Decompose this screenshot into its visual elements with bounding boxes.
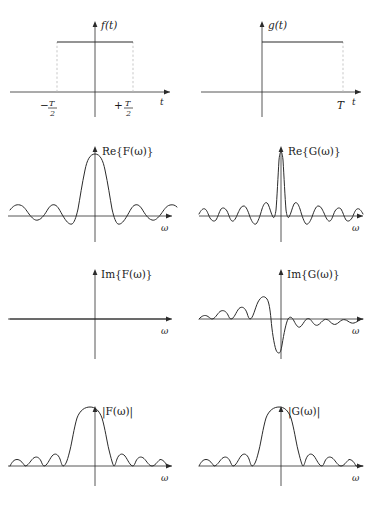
reg-signal-label: Re{G(ω)}	[288, 145, 341, 158]
reg-y-arrowhead	[279, 146, 284, 152]
gt-signal-label: g(t)	[268, 19, 287, 31]
ft-x-axis-label: t	[160, 97, 164, 107]
panel-imf: Im{F(ω)} ω	[0, 247, 190, 369]
gt-y-arrowhead	[260, 21, 265, 27]
reg-x-arrowhead	[357, 214, 363, 219]
ft-tick-right-denominator: 2	[125, 109, 131, 118]
ft-tick-left: − T 2	[40, 99, 57, 118]
absf-abs-sinc-curve	[10, 407, 170, 466]
ref-signal-label: Re{F(ω)}	[102, 145, 154, 158]
ft-tick-left-sign: −	[40, 99, 49, 111]
ref-sinc-curve	[10, 154, 177, 224]
reg-x-axis-label: ω	[352, 223, 360, 233]
gt-x-arrowhead	[355, 90, 361, 95]
img-y-arrowhead	[279, 269, 284, 275]
gt-x-axis-label: t	[352, 97, 356, 107]
absf-x-axis-label: ω	[161, 473, 169, 483]
ref-y-arrowhead	[93, 146, 98, 152]
figure-grid: f(t) t − T 2 + T 2	[0, 0, 381, 513]
ft-tick-right: + T 2	[114, 99, 133, 118]
ft-x-arrowhead	[164, 90, 170, 95]
ft-tick-left-denominator: 2	[49, 109, 55, 118]
panel-gt: g(t) t T	[191, 2, 381, 124]
panel-img: Im{G(ω)} ω	[191, 247, 381, 369]
panel-ref: Re{F(ω)} ω	[0, 124, 190, 246]
panel-absf: |F(ω)| ω	[0, 366, 190, 488]
img-x-axis-label: ω	[352, 326, 360, 336]
imf-signal-label: Im{F(ω)}	[101, 268, 153, 281]
ft-tick-right-numerator: T	[125, 99, 131, 108]
ft-y-arrowhead	[93, 21, 98, 27]
ft-signal-label: f(t)	[100, 19, 117, 31]
absg-x-axis-label: ω	[352, 473, 360, 483]
panel-reg: Re{G(ω)} ω	[191, 124, 381, 246]
panel-ft: f(t) t − T 2 + T 2	[0, 2, 190, 124]
ft-tick-left-numerator: T	[49, 99, 55, 108]
img-signal-label: Im{G(ω)}	[287, 268, 340, 281]
ft-tick-right-sign: +	[114, 99, 123, 111]
imf-y-arrowhead	[93, 269, 98, 275]
imf-x-axis-label: ω	[161, 326, 169, 336]
panel-absg: |G(ω)| ω	[191, 366, 381, 488]
absg-signal-label: |G(ω)|	[288, 405, 320, 419]
ref-x-axis-label: ω	[161, 223, 169, 233]
ref-x-arrowhead	[166, 214, 172, 219]
absf-signal-label: |F(ω)|	[102, 405, 133, 419]
gt-tick-label: T	[337, 99, 345, 111]
